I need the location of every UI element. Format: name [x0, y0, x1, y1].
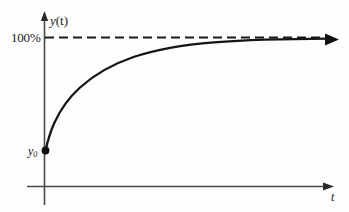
asymptote-value-label: 100% — [11, 31, 41, 44]
saturation-curve — [46, 39, 329, 151]
y-axis-arrowhead-icon — [41, 11, 48, 21]
y-axis-label-arg: (t) — [56, 13, 68, 28]
x-axis-label: t — [331, 191, 334, 203]
plot-svg — [0, 0, 349, 212]
initial-value-label: y0 — [28, 145, 37, 157]
figure-canvas: 100% y(t) y0 t — [0, 0, 349, 212]
initial-value-dot — [42, 147, 50, 155]
initial-value-label-subscript: 0 — [33, 150, 37, 159]
y-axis — [41, 11, 48, 205]
x-axis — [27, 182, 334, 190]
y-axis-label: y(t) — [50, 14, 68, 27]
